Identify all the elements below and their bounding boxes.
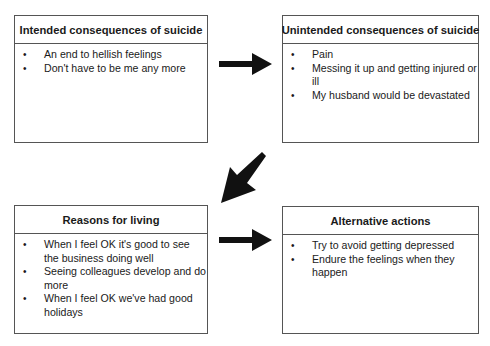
list-item: Pain xyxy=(291,48,478,62)
list-item: When I feel OK it's good to see the busi… xyxy=(23,238,207,265)
box-title: Unintended consequences of suicide xyxy=(283,16,478,44)
box-unintended-consequences: Unintended consequences of suicide Pain … xyxy=(282,15,479,143)
list-item: Endure the feelings when they happen xyxy=(291,253,478,280)
bullet-list: An end to hellish feelings Don't have to… xyxy=(15,48,207,75)
list-item: Try to avoid getting depressed xyxy=(291,239,478,253)
box-title: Reasons for living xyxy=(15,206,207,234)
box-alternative-actions: Alternative actions Try to avoid getting… xyxy=(282,206,479,334)
box-title: Alternative actions xyxy=(283,207,478,235)
arrow-down-left-icon xyxy=(220,153,268,205)
box-intended-consequences: Intended consequences of suicide An end … xyxy=(14,15,208,143)
list-item: My husband would be devastated xyxy=(291,89,478,103)
box-reasons-for-living: Reasons for living When I feel OK it's g… xyxy=(14,205,208,334)
bullet-list: When I feel OK it's good to see the busi… xyxy=(15,238,207,319)
list-item: An end to hellish feelings xyxy=(23,48,207,62)
list-item: Seeing colleagues develop and do more xyxy=(23,265,207,292)
list-item: Don't have to be me any more xyxy=(23,62,207,76)
list-item: When I feel OK we've had good holidays xyxy=(23,292,207,319)
bullet-list: Try to avoid getting depressed Endure th… xyxy=(283,239,478,280)
box-title: Intended consequences of suicide xyxy=(15,16,207,44)
arrow-right-icon xyxy=(219,53,273,75)
bullet-list: Pain Messing it up and getting injured o… xyxy=(283,48,478,102)
list-item: Messing it up and getting injured or ill xyxy=(291,62,478,89)
arrow-right-icon xyxy=(219,229,273,251)
